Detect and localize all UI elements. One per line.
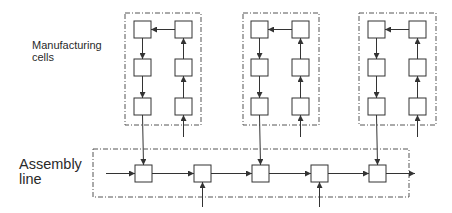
cell-station: [251, 59, 268, 76]
assembly-station: [369, 165, 386, 182]
manufacturing-cells: [125, 13, 436, 165]
assembly-line-label: Assembly line: [19, 157, 82, 187]
cell-1: [125, 13, 201, 165]
cell-station: [134, 59, 151, 76]
cell-to-assembly-arrow: [143, 115, 144, 165]
cell-station: [292, 21, 309, 38]
cell-station: [292, 98, 309, 115]
cell-station: [175, 98, 192, 115]
cell-station: [251, 98, 268, 115]
cell-station: [409, 21, 426, 38]
cell-station: [368, 98, 385, 115]
assembly-line: [93, 149, 415, 207]
cell-3: [359, 13, 436, 165]
cell-station: [368, 59, 385, 76]
manufacturing-cells-label: Manufacturing cells: [32, 40, 102, 63]
cell-station: [292, 59, 309, 76]
cell-station: [175, 59, 192, 76]
assembly-station: [135, 165, 152, 182]
cell-station: [251, 21, 268, 38]
assembly-station: [194, 165, 211, 182]
cell-station: [134, 98, 151, 115]
assembly-station: [311, 165, 328, 182]
cell-to-assembly-arrow: [260, 115, 261, 165]
cell-2: [243, 13, 319, 165]
cell-station: [134, 21, 151, 38]
cell-to-assembly-arrow: [377, 115, 378, 165]
cell-station: [368, 21, 385, 38]
assembly-station: [252, 165, 269, 182]
cell-station: [409, 98, 426, 115]
cell-station: [409, 59, 426, 76]
cell-station: [175, 21, 192, 38]
